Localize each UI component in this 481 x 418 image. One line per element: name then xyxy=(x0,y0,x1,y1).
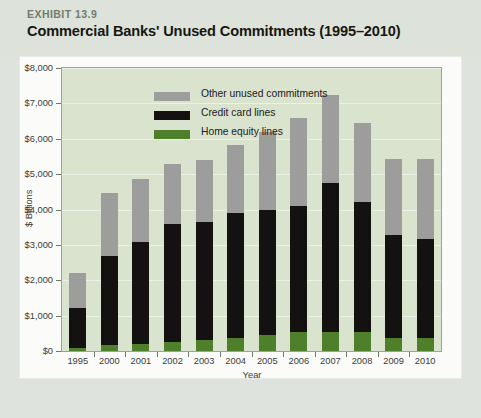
bar-2009 xyxy=(385,68,402,351)
bar-segment xyxy=(322,183,339,332)
y-axis-tick-label: $1,000 xyxy=(25,311,53,321)
plot-inner: Other unused commitmentsCredit card line… xyxy=(62,68,441,351)
legend-item-label: Home equity lines xyxy=(201,126,283,137)
x-axis-tick-label: 2001 xyxy=(131,356,152,366)
bar-2001 xyxy=(132,68,149,351)
legend-swatch-icon xyxy=(154,111,190,120)
x-axis-tick-mark xyxy=(315,352,316,357)
bar-segment xyxy=(164,164,181,224)
x-axis-tick-label: 2005 xyxy=(257,356,278,366)
y-axis-tick-label: $4,000 xyxy=(25,205,53,215)
y-axis-tick-label: $7,000 xyxy=(25,98,53,108)
x-axis-tick-mark xyxy=(188,352,189,357)
y-axis-tick-label: $6,000 xyxy=(25,134,53,144)
bar-segment xyxy=(354,123,371,202)
x-axis-tick-mark xyxy=(283,352,284,357)
y-axis-tick-label: $5,000 xyxy=(25,169,53,179)
bar-segment xyxy=(164,224,181,342)
x-axis-tick-label: 2009 xyxy=(383,356,404,366)
legend-item-label: Credit card lines xyxy=(201,107,275,118)
bar-2007 xyxy=(322,68,339,351)
bar-segment xyxy=(385,235,402,338)
bar-segment xyxy=(196,160,213,222)
bar-segment xyxy=(417,338,434,351)
legend-swatch-icon xyxy=(154,130,190,139)
page-title: Commercial Banks' Unused Commitments (19… xyxy=(27,23,400,39)
bar-segment xyxy=(259,335,276,351)
bar-segment xyxy=(322,95,339,183)
bar-segment xyxy=(322,332,339,351)
x-axis-tick-label: 2004 xyxy=(225,356,246,366)
x-axis-tick-mark xyxy=(157,352,158,357)
bar-segment xyxy=(417,159,434,239)
bar-segment xyxy=(259,210,276,336)
bar-segment xyxy=(417,239,434,338)
exhibit-number-label: EXHIBIT 13.9 xyxy=(27,8,97,20)
x-axis-tick-mark xyxy=(94,352,95,357)
bar-segment xyxy=(354,202,371,332)
bar-segment xyxy=(385,159,402,234)
bar-2006 xyxy=(290,68,307,351)
bar-2008 xyxy=(354,68,371,351)
bar-segment xyxy=(69,308,86,348)
bar-segment xyxy=(101,256,118,344)
x-axis-tick-mark xyxy=(409,352,410,357)
x-axis-tick-mark xyxy=(125,352,126,357)
x-axis-tick-label: 2003 xyxy=(194,356,215,366)
bar-segment xyxy=(227,338,244,351)
x-axis-tick-mark xyxy=(220,352,221,357)
bar-segment xyxy=(354,332,371,351)
bar-segment xyxy=(385,338,402,351)
exhibit-header: EXHIBIT 13.9 Commercial Banks' Unused Co… xyxy=(0,0,481,57)
bar-2000 xyxy=(101,68,118,351)
x-axis-tick-label: 2002 xyxy=(162,356,183,366)
bar-segment xyxy=(290,332,307,351)
bar-segment xyxy=(69,273,86,308)
bar-segment xyxy=(164,342,181,351)
legend-item-label: Other unused commitments xyxy=(201,88,327,99)
bar-segment xyxy=(101,193,118,257)
bar-segment xyxy=(132,242,149,344)
x-axis-tick-label: 2007 xyxy=(320,356,341,366)
x-axis-tick-mark xyxy=(378,352,379,357)
bar-segment xyxy=(290,118,307,206)
x-axis-tick-label: 2008 xyxy=(352,356,373,366)
chart-card: $ Billions $0$1,000$2,000$3,000$4,000$5,… xyxy=(20,57,461,378)
x-axis-tick-label: 2000 xyxy=(99,356,120,366)
legend-swatch-icon xyxy=(154,92,190,101)
x-axis-tick-mark xyxy=(346,352,347,357)
bar-segment xyxy=(227,145,244,213)
y-axis-tick-label: $8,000 xyxy=(25,63,53,73)
y-axis-tick-label: $0 xyxy=(43,346,53,356)
bar-segment xyxy=(69,348,86,351)
x-axis-title: Year xyxy=(243,369,262,380)
bar-segment xyxy=(196,222,213,341)
x-axis-tick-label: 2006 xyxy=(289,356,310,366)
bar-2010 xyxy=(417,68,434,351)
bar-segment xyxy=(132,344,149,351)
bar-segment xyxy=(290,206,307,333)
y-axis-tick-label: $2,000 xyxy=(25,275,53,285)
bar-segment xyxy=(196,340,213,351)
bar-segment xyxy=(101,345,118,351)
exhibit-page: EXHIBIT 13.9 Commercial Banks' Unused Co… xyxy=(0,0,481,418)
y-axis-tick-label: $3,000 xyxy=(25,240,53,250)
bar-segment xyxy=(132,179,149,242)
x-axis-tick-label: 1995 xyxy=(67,356,88,366)
bar-segment xyxy=(259,132,276,210)
x-axis-tick-label: 2010 xyxy=(415,356,436,366)
bar-1995 xyxy=(69,68,86,351)
bar-segment xyxy=(227,213,244,338)
plot-area: Other unused commitmentsCredit card line… xyxy=(61,67,442,352)
x-axis-tick-mark xyxy=(252,352,253,357)
